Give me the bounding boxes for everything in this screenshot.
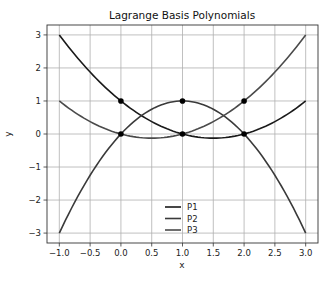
chart-title: Lagrange Basis Polynomials [109, 9, 255, 21]
node-marker [180, 98, 186, 104]
x-axis-ticks: −1.0−0.50.00.51.01.52.02.53.0 [49, 243, 312, 258]
legend-label-p1: P1 [187, 202, 198, 212]
legend-label-p3: P3 [187, 225, 198, 235]
y-tick-label: 3 [36, 30, 41, 40]
x-tick-label: 1.0 [176, 248, 190, 258]
node-marker [180, 131, 186, 137]
x-axis-label: x [179, 260, 185, 270]
lagrange-chart: Lagrange Basis Polynomials −1.0−0.50.00.… [0, 0, 336, 282]
legend-label-p2: P2 [187, 214, 198, 224]
x-tick-label: 1.5 [207, 248, 221, 258]
node-marker [118, 131, 124, 137]
node-marker [118, 98, 124, 104]
x-tick-label: 0.5 [145, 248, 159, 258]
x-tick-label: 2.0 [237, 248, 251, 258]
y-tick-label: −3 [28, 228, 41, 238]
legend: P1P2P3 [165, 202, 198, 235]
y-axis-ticks: −3−2−10123 [28, 30, 47, 238]
x-tick-label: −1.0 [49, 248, 70, 258]
x-tick-label: −0.5 [80, 248, 101, 258]
y-tick-label: −1 [28, 162, 41, 172]
x-tick-label: 0.0 [114, 248, 128, 258]
y-tick-label: 2 [36, 63, 41, 73]
y-tick-label: −2 [28, 195, 41, 205]
x-tick-label: 3.0 [299, 248, 313, 258]
node-marker [241, 98, 247, 104]
node-marker [241, 131, 247, 137]
y-axis-label: y [3, 131, 13, 137]
y-tick-label: 0 [36, 129, 41, 139]
y-tick-label: 1 [36, 96, 41, 106]
x-tick-label: 2.5 [268, 248, 282, 258]
